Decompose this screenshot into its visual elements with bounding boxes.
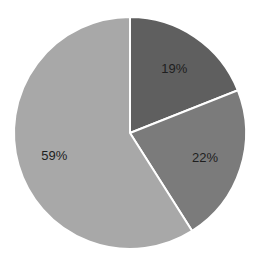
- pie-chart: [0, 0, 260, 260]
- slice-label: 19%: [161, 60, 187, 75]
- slice-label: 22%: [192, 150, 218, 165]
- slice-label: 59%: [41, 148, 67, 163]
